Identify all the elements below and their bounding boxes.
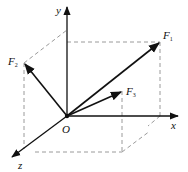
diagram-svg — [0, 0, 188, 172]
label-origin: O — [62, 124, 70, 135]
label-f2: F2 — [8, 56, 18, 68]
label-f2-sub: 2 — [15, 62, 18, 68]
force-diagram: y x z O F1 F2 F3 — [0, 0, 188, 172]
origin-point — [65, 114, 69, 118]
label-f2-main: F — [8, 55, 15, 67]
vector-f3 — [67, 92, 121, 116]
axes — [12, 7, 178, 157]
label-f3: F3 — [126, 86, 136, 98]
label-f3-sub: 3 — [133, 92, 136, 98]
label-x-axis: x — [171, 120, 176, 131]
force-vectors — [25, 43, 159, 116]
label-f1: F1 — [163, 30, 173, 42]
label-f1-main: F — [163, 29, 170, 41]
label-f3-main: F — [126, 85, 133, 97]
vector-f1 — [67, 43, 159, 116]
label-f1-sub: 1 — [170, 36, 173, 42]
z-axis — [12, 116, 67, 157]
vector-f2 — [25, 64, 67, 116]
dashed-box — [24, 30, 160, 152]
label-y-axis: y — [56, 5, 61, 16]
label-z-axis: z — [18, 160, 22, 171]
